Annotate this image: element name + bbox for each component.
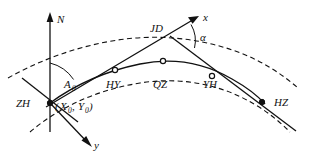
jd-label: JD xyxy=(150,22,163,34)
yh-label: YH xyxy=(203,78,218,90)
point-marker-zh[interactable] xyxy=(47,100,52,105)
deflection-angle-label: α xyxy=(200,31,206,43)
hy-label: HY xyxy=(105,78,122,90)
deflection-angle-arc xyxy=(191,25,195,49)
coord-x-symbol: X xyxy=(59,100,68,112)
point-marker-hy[interactable] xyxy=(112,67,117,72)
tangent-out-line xyxy=(170,36,296,131)
coord-close-paren: ) xyxy=(88,100,93,113)
point-marker-hz[interactable] xyxy=(259,99,264,104)
coord-comma: , xyxy=(72,100,75,112)
coordinate-label-group: ( X 0 , Y 0 ) xyxy=(55,100,93,115)
hz-label: HZ xyxy=(273,96,289,108)
curve-diagram-figure: N x y JD α A 0 ZH HY QZ YH HZ ( X 0 , Y … xyxy=(0,0,315,166)
qz-label: QZ xyxy=(153,78,168,90)
diagram-canvas: N x y JD α A 0 ZH HY QZ YH HZ ( X 0 , Y … xyxy=(0,0,315,166)
y-axis-label: y xyxy=(93,139,99,151)
azimuth-angle-label: A xyxy=(63,78,71,90)
north-axis xyxy=(47,12,54,132)
north-axis-label: N xyxy=(56,13,65,25)
point-marker-qz[interactable] xyxy=(160,58,165,63)
x-axis-label: x xyxy=(202,11,208,23)
azimuth-angle-subscript: 0 xyxy=(72,84,76,93)
zh-label: ZH xyxy=(16,97,31,109)
